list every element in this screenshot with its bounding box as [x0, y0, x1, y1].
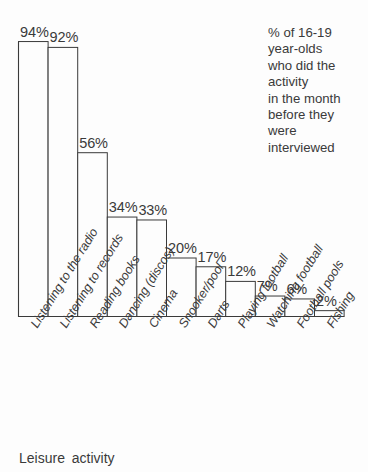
annotation-line: year-olds — [268, 41, 366, 57]
x-axis-title: Leisure activity — [19, 450, 115, 466]
annotation-line: activity — [268, 74, 366, 90]
bar-value-label: 12% — [227, 263, 256, 279]
bar-value-label: 56% — [79, 135, 108, 151]
bar-value-label: 94% — [20, 24, 49, 40]
bar-value-label: 17% — [198, 249, 227, 265]
chart-annotation: % of 16-19year-oldswho did theactivityin… — [268, 25, 366, 156]
annotation-line: who did the — [268, 58, 366, 74]
bar — [19, 42, 49, 317]
annotation-line: interviewed — [268, 140, 366, 156]
bar-chart-figure: 94%92%56%34%33%20%17%12%7%6%2% Listening… — [0, 0, 368, 472]
bar-value-label: 34% — [109, 199, 138, 215]
annotation-line: in the month — [268, 91, 366, 107]
annotation-line: % of 16-19 — [268, 25, 366, 41]
bar-value-label: 33% — [138, 202, 167, 218]
annotation-line: were — [268, 123, 366, 139]
annotation-line: before they — [268, 107, 366, 123]
bar-value-label: 92% — [50, 29, 79, 45]
